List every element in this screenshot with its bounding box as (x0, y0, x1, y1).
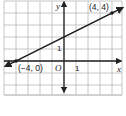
grid-lines (4, 1, 122, 95)
y-axis-label: y (55, 1, 60, 11)
coordinate-plane: y x O 1 1 (−4, 0) (4, 4) (0, 0, 126, 116)
point-label-a: (−4, 0) (18, 63, 43, 73)
data-point-1 (110, 11, 114, 15)
x-axis-label: x (116, 64, 121, 74)
axis-labels: y x O 1 1 (−4, 0) (4, 4) (18, 1, 121, 74)
axes (4, 2, 121, 92)
y-tick-label: 1 (57, 44, 62, 53)
point-label-b: (4, 4) (89, 2, 109, 12)
x-tick-label: 1 (75, 64, 80, 73)
origin-label: O (55, 63, 62, 73)
